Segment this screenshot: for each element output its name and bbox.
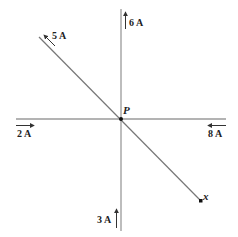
- current-arrow-8a: 8 A: [208, 126, 226, 140]
- current-arrow-5a: 5 A: [44, 30, 67, 46]
- current-arrow-6a: 6 A: [126, 12, 144, 29]
- current-label-6a: 6 A: [129, 17, 144, 28]
- endpoint-x-label: x: [202, 190, 209, 202]
- diagram-canvas: P x 5 A 6 A 2 A 8 A 3 A: [0, 0, 238, 237]
- current-label-5a: 5 A: [52, 30, 67, 41]
- endpoint-x-dot: [199, 199, 203, 203]
- current-label-2a: 2 A: [17, 128, 32, 139]
- point-p-label: P: [123, 104, 130, 116]
- point-p-dot: [119, 117, 123, 121]
- current-label-8a: 8 A: [208, 128, 223, 139]
- current-arrow-2a: 2 A: [16, 126, 34, 140]
- current-arrow-3a: 3 A: [97, 209, 117, 228]
- current-label-3a: 3 A: [97, 214, 112, 225]
- wire-diagram: P x 5 A 6 A 2 A 8 A 3 A: [0, 0, 238, 237]
